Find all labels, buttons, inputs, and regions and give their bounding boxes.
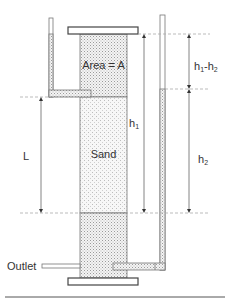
h1-label: h1	[129, 117, 139, 130]
head-difference-label: h1-h2	[194, 60, 218, 73]
bottom-cap	[68, 278, 138, 285]
diff-dash: -h	[204, 60, 214, 72]
outlet-label: Outlet	[7, 260, 36, 272]
permeameter-diagram: Area = A Sand L h1 h2 h1-h2 Outlet	[0, 0, 235, 304]
outlet-pipe	[42, 264, 80, 268]
h2-label-sub: 2	[204, 159, 208, 166]
h1-label-sub: 1	[135, 123, 139, 130]
h2-label: h2	[198, 153, 208, 166]
area-label: Area = A	[82, 59, 125, 71]
length-label: L	[23, 150, 29, 162]
top-cap	[68, 27, 138, 34]
diff-sub2: 2	[214, 66, 218, 73]
sand-label: Sand	[91, 148, 117, 160]
